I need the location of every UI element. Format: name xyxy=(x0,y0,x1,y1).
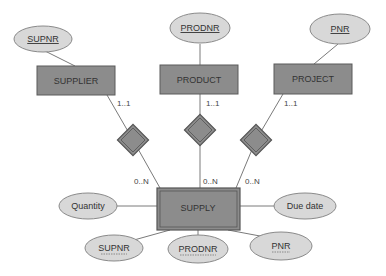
line-supnr-supplier xyxy=(43,50,75,66)
attribute-label: PRODNR xyxy=(178,244,218,254)
cardinality-supply-project: 0..N xyxy=(245,177,260,186)
cardinality-product: 1..1 xyxy=(206,99,220,108)
cardinality-supplier: 1..1 xyxy=(117,99,131,108)
attribute-prodnr-top: PRODNR xyxy=(170,13,230,43)
line-supply-pnr xyxy=(228,230,260,236)
attribute-due-date: Due date xyxy=(274,193,336,219)
attribute-label: Due date xyxy=(287,201,324,211)
entity-label: PROJECT xyxy=(292,74,335,84)
er-diagram: SUPNR PRODNR PNR SUPPLIER PRODUCT PROJEC… xyxy=(0,0,386,276)
attribute-label: Quantity xyxy=(71,201,105,211)
attribute-supnr-top: SUPNR xyxy=(14,26,72,52)
attribute-supnr-supply: SUPNR xyxy=(85,235,143,261)
line-pnr-project xyxy=(314,44,338,64)
relationship-product-supply xyxy=(184,114,215,145)
cardinality-supply-supplier: 0..N xyxy=(134,177,149,186)
relationship-project-supply xyxy=(240,124,271,155)
attribute-label: SUPNR xyxy=(98,243,130,253)
cardinality-supply-product: 0..N xyxy=(203,177,218,186)
attribute-prodnr-supply: PRODNR xyxy=(168,235,228,263)
line-supply-supnr xyxy=(134,230,170,240)
attribute-pnr-top: PNR xyxy=(310,14,370,44)
relationship-supplier-supply xyxy=(117,124,148,155)
attribute-pnr-supply: PNR xyxy=(250,232,312,260)
attribute-label: PNR xyxy=(271,241,291,251)
entity-project: PROJECT xyxy=(274,64,352,94)
attribute-label: PRODNR xyxy=(180,23,220,33)
entity-label: PRODUCT xyxy=(177,75,222,85)
attribute-quantity: Quantity xyxy=(59,193,117,219)
entity-label: SUPPLIER xyxy=(54,76,99,86)
entity-supply: SUPPLY xyxy=(157,188,240,230)
entity-label: SUPPLY xyxy=(181,203,216,213)
entity-supplier: SUPPLIER xyxy=(37,66,115,95)
entity-product: PRODUCT xyxy=(160,65,238,94)
attribute-label: PNR xyxy=(330,24,350,34)
cardinality-project: 1..1 xyxy=(284,99,298,108)
attribute-label: SUPNR xyxy=(27,34,59,44)
